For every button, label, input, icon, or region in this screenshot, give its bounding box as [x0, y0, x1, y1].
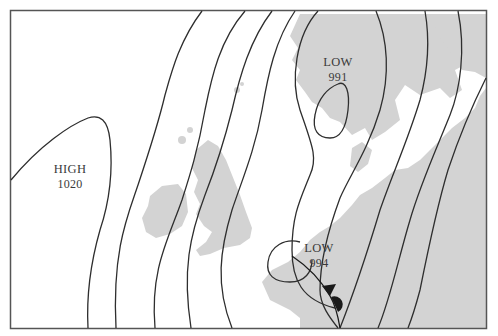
isobar — [115, 11, 202, 328]
land-island — [187, 127, 193, 133]
isobar-high-1020 — [11, 117, 111, 328]
low-991-kind: LOW — [313, 55, 363, 70]
high-pressure-kind: HIGH — [40, 162, 100, 177]
low-994-kind: LOW — [294, 241, 344, 256]
land-island — [178, 136, 186, 144]
low-pressure-label-991: LOW 991 — [313, 55, 363, 85]
low-pressure-label-994: LOW 994 — [294, 241, 344, 271]
land-great-britain — [192, 140, 252, 256]
high-pressure-label: HIGH 1020 — [40, 162, 100, 192]
low-994-value: 994 — [294, 256, 344, 271]
high-pressure-value: 1020 — [40, 177, 100, 192]
low-991-value: 991 — [313, 70, 363, 85]
land-island — [240, 82, 244, 86]
land-ireland — [142, 184, 188, 238]
